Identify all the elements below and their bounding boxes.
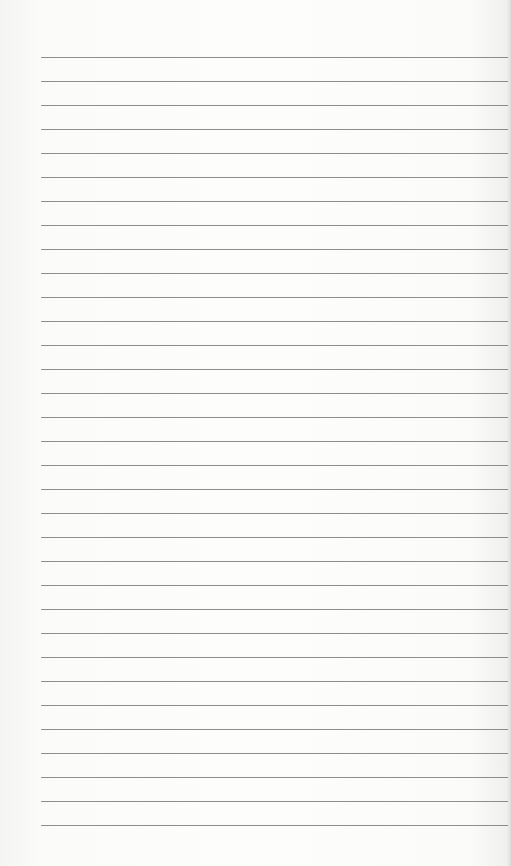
- ruled-line: [41, 465, 508, 466]
- ruled-line: [41, 705, 508, 706]
- ruled-line: [41, 513, 508, 514]
- ruled-line: [41, 249, 508, 250]
- ruled-line: [41, 129, 508, 130]
- ruled-line: [41, 753, 508, 754]
- ruled-line: [41, 537, 508, 538]
- ruled-line: [41, 177, 508, 178]
- ruled-line: [41, 777, 508, 778]
- ruled-line: [41, 561, 508, 562]
- ruled-line: [41, 633, 508, 634]
- ruled-line: [41, 201, 508, 202]
- ruled-line: [41, 57, 508, 58]
- ruled-line: [41, 153, 508, 154]
- ruled-line: [41, 489, 508, 490]
- ruled-line: [41, 825, 508, 826]
- ruled-line: [41, 393, 508, 394]
- ruled-line: [41, 225, 508, 226]
- ruled-line: [41, 105, 508, 106]
- ruled-line: [41, 441, 508, 442]
- ruled-line: [41, 321, 508, 322]
- ruled-line: [41, 369, 508, 370]
- ruled-line: [41, 657, 508, 658]
- ruled-line: [41, 417, 508, 418]
- ruled-line: [41, 609, 508, 610]
- ruled-line: [41, 801, 508, 802]
- page-edge-shadow: [507, 0, 511, 866]
- ruled-line: [41, 81, 508, 82]
- ruled-line: [41, 729, 508, 730]
- ruled-line: [41, 681, 508, 682]
- ruled-line: [41, 297, 508, 298]
- lined-paper: [0, 0, 511, 866]
- ruled-line: [41, 585, 508, 586]
- ruled-line: [41, 345, 508, 346]
- ruled-line: [41, 273, 508, 274]
